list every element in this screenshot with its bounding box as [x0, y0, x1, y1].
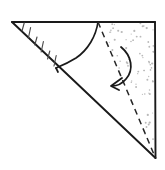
stipple-dot	[152, 138, 154, 140]
stipple-dot	[127, 65, 129, 67]
stipple-dot	[148, 46, 150, 48]
stipple-dot	[126, 61, 128, 63]
stipple-dot	[109, 42, 110, 43]
stipple-dot	[150, 69, 152, 71]
stipple-dot	[147, 41, 149, 43]
stipple-dot	[147, 114, 149, 116]
stipple-dot	[153, 45, 155, 47]
stipple-dot	[135, 84, 136, 85]
stipple-dot	[121, 31, 123, 33]
stipple-dot	[133, 30, 135, 32]
stipple-dot	[136, 36, 138, 38]
stipple-dot	[114, 24, 115, 25]
stipple-dot	[146, 79, 148, 81]
stipple-dot	[119, 61, 121, 63]
stipple-dot	[146, 27, 148, 29]
stipple-dot	[153, 51, 155, 53]
stipple-dot	[142, 25, 144, 27]
stipple-dot	[131, 82, 133, 84]
hatch-mark	[22, 23, 24, 31]
stipple-dot	[117, 30, 119, 32]
stipple-dot	[139, 53, 141, 55]
stipple-dot	[152, 80, 153, 81]
stipple-dot	[149, 93, 151, 95]
origami-fold-diagram: Origami fold step diagram Right triangle…	[0, 0, 165, 170]
stipple-dot	[152, 112, 153, 113]
stipple-dot	[144, 70, 145, 71]
stipple-dot	[135, 86, 137, 88]
stipple-dot	[144, 93, 146, 95]
stipple-dot	[112, 27, 114, 29]
right-edge	[155, 22, 156, 158]
stipple-dot	[152, 29, 153, 30]
stipple-dot	[131, 80, 132, 81]
flap-curved-edge	[56, 22, 98, 68]
stipple-dot	[137, 73, 138, 74]
stipple-dot	[125, 47, 127, 49]
stipple-dot	[146, 126, 148, 128]
stipple-dot	[111, 23, 113, 25]
stipple-dot	[116, 55, 118, 57]
stipple-dot	[125, 39, 126, 40]
stipple-dot	[114, 39, 116, 41]
stipple-dot	[111, 49, 113, 51]
stipple-dot	[137, 71, 139, 73]
stipple-dot	[110, 29, 112, 31]
diagram-canvas	[0, 0, 165, 170]
stipple-dot	[151, 67, 153, 69]
stipple-dot	[149, 64, 151, 66]
stipple-dot	[151, 62, 153, 64]
stipple-dot	[140, 36, 142, 38]
hatch-mark	[28, 28, 30, 39]
stipple-dot	[148, 76, 149, 77]
stipple-dot	[131, 34, 132, 35]
junction-tick	[56, 68, 58, 72]
stipple-dot	[149, 89, 150, 90]
stipple-dot	[142, 57, 143, 58]
stipple-shading	[109, 21, 155, 140]
stipple-dot	[132, 39, 134, 41]
stipple-dot	[145, 122, 147, 124]
stipple-dot	[142, 94, 143, 95]
stipple-dot	[149, 121, 151, 123]
stipple-dot	[109, 31, 111, 33]
stipple-dot	[118, 67, 119, 68]
stipple-dot	[148, 124, 150, 126]
fold-crease-dashed	[98, 22, 156, 158]
stipple-dot	[130, 41, 132, 43]
stipple-dot	[148, 61, 150, 63]
stipple-dot	[141, 55, 143, 57]
hypotenuse-edge	[12, 22, 156, 158]
